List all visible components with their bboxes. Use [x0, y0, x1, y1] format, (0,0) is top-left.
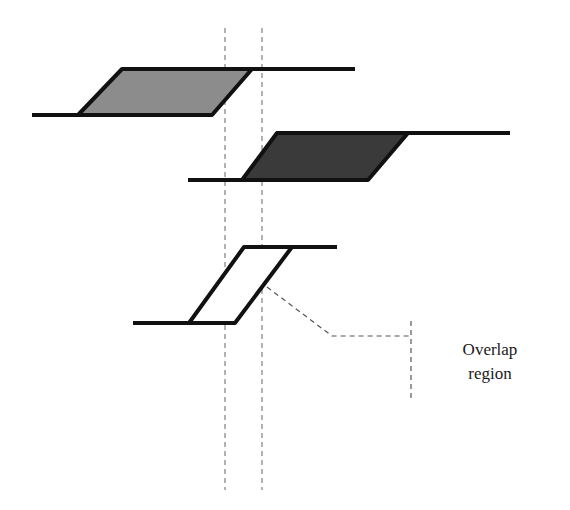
overlap-diagram — [0, 0, 570, 510]
label-line-1: Overlap — [420, 338, 560, 362]
overlap-pulse-fill — [189, 247, 292, 323]
leader-line — [267, 287, 411, 336]
middle-pulse — [188, 133, 510, 180]
label-line-2: region — [420, 362, 560, 386]
overlap-pulse — [133, 247, 337, 323]
top-pulse-fill — [78, 69, 252, 115]
top-pulse — [32, 69, 355, 115]
overlap-region-label: Overlap region — [420, 338, 560, 386]
middle-pulse-fill — [242, 133, 408, 180]
